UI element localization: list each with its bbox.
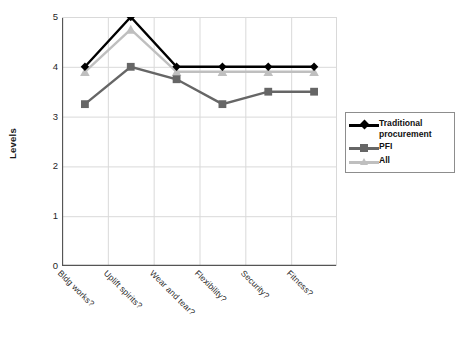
y-axis-title: Levels [0,108,24,178]
plot-area [62,17,337,266]
x-axis-tick-label: Flexibility? [193,268,229,304]
marker-diamond [218,63,226,71]
marker-square [219,100,227,108]
legend-item[interactable]: Traditional procurement [349,118,450,139]
x-axis-tick-label: Wear and tear? [148,268,197,317]
legend-item[interactable]: PFI [349,141,450,153]
plot-svg [62,17,337,266]
marker-square [81,100,89,108]
marker-diamond [310,63,318,71]
legend-key [349,156,379,167]
marker-triangle [126,25,136,34]
y-axis-tick-label: 5 [36,12,58,22]
diamond-icon [360,120,370,130]
legend-item[interactable]: All [349,155,450,167]
y-axis-title-label: Levels [7,128,18,159]
marker-square [310,88,318,96]
y-axis-tick-label: 2 [36,161,58,171]
x-axis-tick-label: Fitness? [285,268,315,298]
legend-label: Traditional procurement [379,118,450,139]
legend-label: All [379,155,390,166]
levels-line-chart: Levels 012345 Bldg works?Uplift spirits?… [0,0,461,346]
y-axis-tick-label: 0 [36,261,58,271]
x-axis-tick-label: Security? [239,268,272,301]
triangle-icon [360,158,368,165]
y-axis-tick-labels: 012345 [30,17,58,266]
x-axis-tick-label: Uplift spirits? [102,268,145,311]
y-axis-tick-label: 3 [36,112,58,122]
marker-diamond [264,63,272,71]
marker-square [264,88,272,96]
square-icon [360,144,368,152]
chart-legend: Traditional procurementPFIAll [345,112,455,173]
legend-label: PFI [379,141,392,152]
x-axis-tick-labels: Bldg works?Uplift spirits?Wear and tear?… [62,268,337,346]
legend-key [349,142,379,153]
legend-key [349,119,379,130]
marker-square [173,75,181,83]
y-axis-tick-label: 1 [36,211,58,221]
x-axis-tick-label: Bldg works? [56,268,97,309]
marker-square [127,63,135,71]
y-axis-tick-label: 4 [36,62,58,72]
